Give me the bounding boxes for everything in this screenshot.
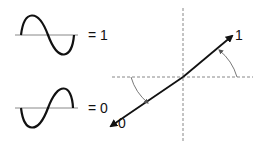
angle-arc-negative: [131, 77, 148, 103]
wave-one-label: = 1: [88, 27, 108, 43]
angle-arc-positive: [219, 50, 237, 77]
vector-label-zero: 0: [118, 115, 126, 131]
vector-positive: [183, 36, 232, 77]
vector-label-one: 1: [235, 27, 243, 43]
wave-zero-label: = 0: [88, 100, 108, 116]
phase-diagram: = 1 = 0 1 0: [0, 0, 262, 148]
wave-one: = 1: [15, 15, 108, 54]
wave-zero: = 0: [15, 88, 108, 127]
